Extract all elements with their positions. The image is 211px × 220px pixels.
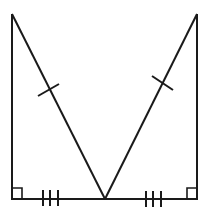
background <box>0 0 211 220</box>
congruent-right-triangles-diagram <box>0 0 211 220</box>
